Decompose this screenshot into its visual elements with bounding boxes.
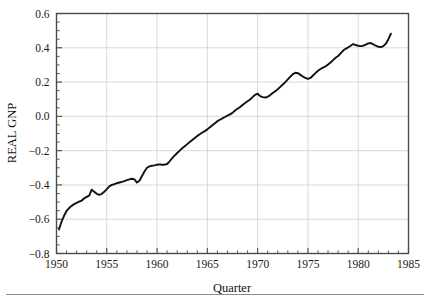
x-tick-label: 1965 bbox=[196, 258, 219, 270]
y-tick-label: 0.0 bbox=[35, 110, 50, 122]
x-tick-label: 1955 bbox=[95, 258, 118, 270]
y-tick-label: −0.2 bbox=[29, 145, 50, 157]
y-tick-label: −0.8 bbox=[29, 248, 50, 260]
chart-canvas: 19501955196019651970197519801985 −0.8−0.… bbox=[0, 0, 430, 301]
x-tick-label: 1985 bbox=[397, 258, 420, 270]
x-tick-label: 1975 bbox=[296, 258, 319, 270]
y-tick-label: −0.4 bbox=[29, 179, 50, 191]
x-tick-label: 1960 bbox=[146, 258, 169, 270]
footer-divider bbox=[6, 294, 424, 295]
x-tick-label: 1980 bbox=[347, 258, 370, 270]
x-axis-title: Quarter bbox=[213, 281, 252, 295]
y-tick-label: −0.6 bbox=[29, 213, 50, 225]
y-tick-label: 0.6 bbox=[35, 8, 50, 20]
y-tick-label: 0.2 bbox=[35, 76, 50, 88]
y-axis-title: REAL GNP bbox=[5, 103, 19, 163]
x-tick-label: 1970 bbox=[246, 258, 269, 270]
real-gnp-chart-figure: 19501955196019651970197519801985 −0.8−0.… bbox=[0, 0, 430, 301]
y-tick-label: 0.4 bbox=[35, 42, 50, 54]
